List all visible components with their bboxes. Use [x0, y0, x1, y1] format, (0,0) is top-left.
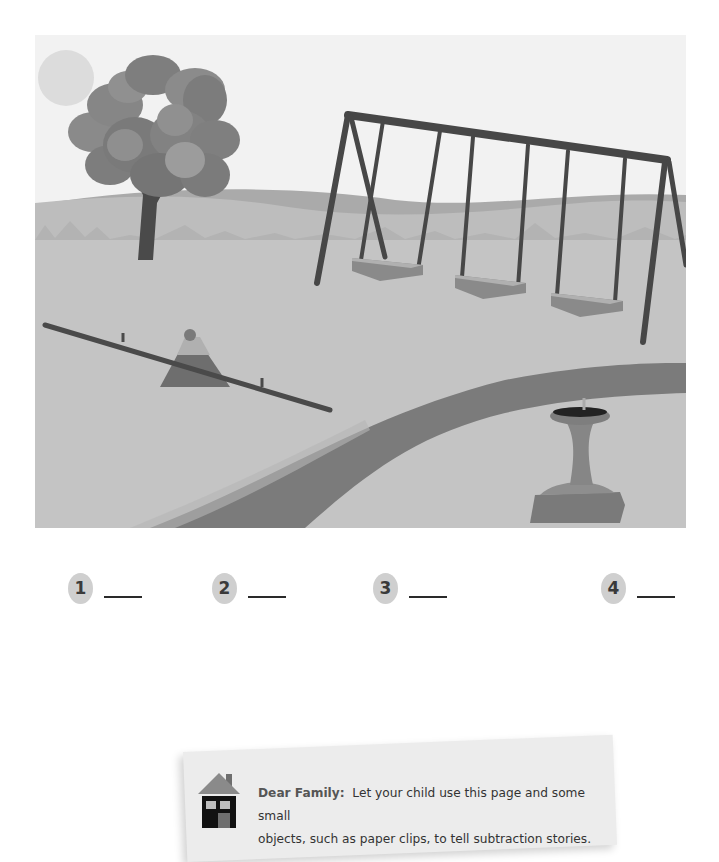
note-line-2: objects, such as paper clips, to tell su…: [258, 828, 618, 851]
answer-item-4: 4: [601, 568, 675, 608]
answer-item-2: 2: [212, 568, 286, 608]
house-icon: [198, 771, 240, 829]
answer-item-1: 1: [68, 568, 142, 608]
answer-blank[interactable]: [637, 596, 675, 598]
sun-icon: [38, 50, 94, 106]
answer-item-3: 3: [373, 568, 447, 608]
number-badge: 2: [212, 573, 237, 604]
family-note: Dear Family: Let your child use this pag…: [193, 770, 623, 840]
answer-blank[interactable]: [104, 596, 142, 598]
number-badge: 3: [373, 573, 398, 604]
number-badge: 4: [601, 573, 626, 604]
number-badge: 1: [68, 573, 93, 604]
note-lead: Dear Family:: [258, 786, 345, 800]
answer-blank[interactable]: [409, 596, 447, 598]
answer-blank[interactable]: [248, 596, 286, 598]
playground-illustration: [35, 35, 686, 528]
note-text: Dear Family: Let your child use this pag…: [258, 782, 618, 851]
answer-row: 1 2 3 4: [0, 568, 719, 608]
